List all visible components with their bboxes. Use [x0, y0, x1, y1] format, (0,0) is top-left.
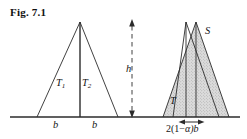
width-suffix: )b [190, 123, 198, 134]
label-T2: T2 [82, 78, 91, 89]
label-width-expression: 2(1−α)b [166, 124, 199, 134]
label-T2-base: T [82, 77, 88, 88]
label-T2-subscript: 2 [88, 82, 92, 90]
triangle-T1 [37, 22, 80, 117]
figure-drawing [0, 0, 247, 139]
triangle-T2 [80, 22, 118, 117]
label-base-b-left: b [53, 120, 58, 131]
width-prefix: 2(1 [166, 123, 179, 134]
figure-container: Fig. 7.1 T1 T2 b b h T S 2(1−α)b [0, 0, 247, 139]
label-triangle-S: S [205, 26, 210, 37]
label-T1-subscript: 1 [62, 82, 66, 90]
label-base-b-right: b [92, 120, 97, 131]
label-triangle-T: T [170, 96, 176, 107]
height-arrow-head-top [129, 19, 135, 27]
figure-caption: Fig. 7.1 [10, 6, 46, 18]
label-T1-base: T [56, 77, 62, 88]
label-T1: T1 [56, 78, 65, 89]
label-height-h: h [126, 64, 131, 75]
